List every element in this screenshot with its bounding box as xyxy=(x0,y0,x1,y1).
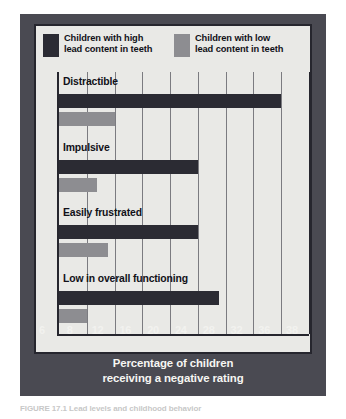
category-label: Distractible xyxy=(63,76,118,87)
bar-low-lead xyxy=(59,243,108,257)
x-tick-38: 38 xyxy=(286,324,298,336)
legend-label-low-lead: Children with low lead content in teeth xyxy=(195,33,283,55)
legend-entry-low-lead: Children with low lead content in teeth xyxy=(174,33,306,57)
legend-entry-high-lead: Children with high lead content in teeth xyxy=(43,33,174,57)
x-tick-24: 24 xyxy=(175,324,187,336)
bar-low-lead xyxy=(59,112,115,126)
x-axis-tick-labels: 681216202428323638 xyxy=(41,324,293,340)
x-tick-8: 8 xyxy=(67,324,73,336)
legend-label-high-lead: Children with high lead content in teeth xyxy=(64,33,152,55)
legend-swatch-low-lead xyxy=(174,34,190,57)
x-tick-16: 16 xyxy=(119,324,131,336)
bar-low-lead xyxy=(59,178,97,192)
bar-group: Distractible xyxy=(59,72,309,138)
figure-caption: FIGURE 17.1 Lead levels and childhood be… xyxy=(20,404,326,417)
x-axis-title: Percentage of children receiving a negat… xyxy=(20,356,326,385)
plot-area: DistractibleImpulsiveEasily frustratedLo… xyxy=(57,72,309,336)
gridline-38 xyxy=(309,72,311,334)
x-tick-28: 28 xyxy=(203,324,215,336)
bar-high-lead xyxy=(59,160,198,174)
bar-low-lead xyxy=(59,309,87,323)
bar-groups: DistractibleImpulsiveEasily frustratedLo… xyxy=(59,72,309,334)
x-tick-36: 36 xyxy=(258,324,270,336)
x-tick-32: 32 xyxy=(231,324,243,336)
category-label: Low in overall functioning xyxy=(63,273,188,284)
x-tick-12: 12 xyxy=(92,324,104,336)
chart-plate: Children with high lead content in teeth… xyxy=(34,24,312,354)
bar-group: Easily frustrated xyxy=(59,203,309,269)
legend-swatch-high-lead xyxy=(43,34,59,57)
x-tick-6: 6 xyxy=(39,324,45,336)
figure-container: Children with high lead content in teeth… xyxy=(0,0,346,419)
bar-high-lead xyxy=(59,225,198,239)
chart-legend: Children with high lead content in teeth… xyxy=(36,26,310,72)
bar-group: Impulsive xyxy=(59,138,309,204)
x-tick-20: 20 xyxy=(147,324,159,336)
category-label: Easily frustrated xyxy=(63,207,142,218)
bar-high-lead xyxy=(59,291,219,305)
chart-panel: Children with high lead content in teeth… xyxy=(20,14,326,396)
category-label: Impulsive xyxy=(63,142,110,153)
bar-high-lead xyxy=(59,94,281,108)
